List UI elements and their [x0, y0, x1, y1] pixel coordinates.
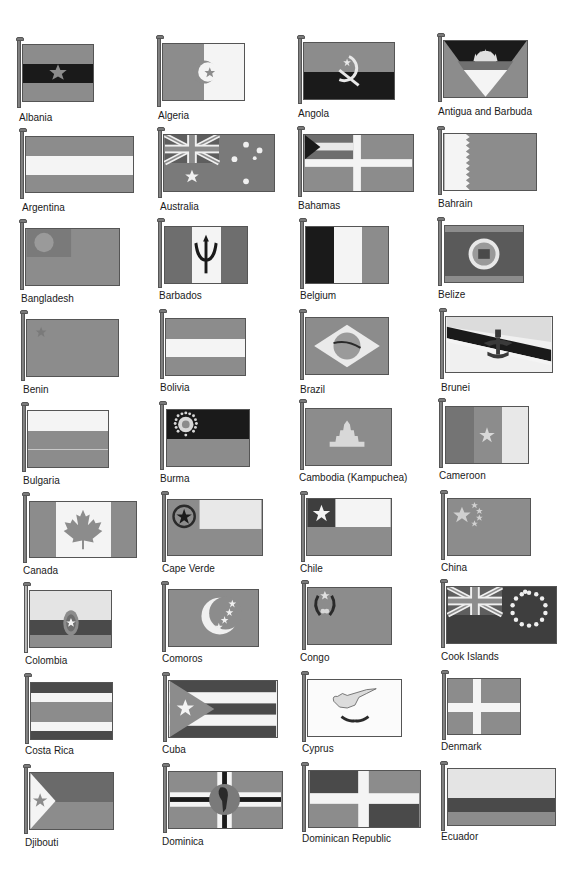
flagpole-icon: [441, 764, 445, 831]
flag-label: Cambodia (Kampuchea): [299, 472, 407, 483]
flag-cameroon: [445, 406, 529, 464]
flag-label: Argentina: [22, 202, 65, 213]
flag-comoros: [168, 589, 259, 647]
flagpole-icon: [158, 221, 162, 288]
flag-benin: [26, 319, 119, 377]
flag-cape-verde: [167, 499, 263, 556]
flagpole-icon: [163, 766, 167, 833]
flagpole-icon: [160, 312, 164, 379]
flag-label: Costa Rica: [25, 745, 74, 756]
flag-bolivia: [165, 318, 246, 376]
flag-label: Australia: [160, 201, 199, 212]
flag-brunei: [445, 316, 553, 373]
flag-label: Cape Verde: [162, 563, 215, 574]
flagpole-icon: [442, 673, 446, 740]
flagpole-icon: [157, 38, 161, 107]
flagpole-icon: [300, 402, 304, 470]
flag-dominica: [168, 771, 283, 829]
flag-label: Bangladesh: [21, 293, 74, 304]
flag-ecuador: [447, 768, 556, 826]
flagpole-icon: [302, 583, 306, 650]
flag-antigua-and-barbuda: [443, 40, 528, 98]
flag-label: Cuba: [162, 744, 186, 755]
flag-label: Bahamas: [298, 200, 340, 211]
flagpole-icon: [162, 584, 166, 652]
flagpole-icon: [24, 585, 28, 653]
flag-belgium: [305, 226, 389, 284]
flag-label: Comoros: [162, 653, 203, 664]
flag-label: Belgium: [300, 290, 336, 301]
flag-label: Bulgaria: [23, 475, 60, 486]
flag-bulgaria: [27, 410, 109, 468]
flagpole-icon: [17, 40, 21, 108]
flag-label: Djibouti: [25, 837, 58, 848]
flag-label: Algeria: [158, 110, 189, 121]
flag-label: Cameroon: [439, 470, 486, 481]
flag-label: Barbados: [159, 290, 202, 301]
flagpole-icon: [439, 401, 443, 468]
flag-colombia: [29, 590, 112, 648]
flag-label: Albania: [19, 112, 52, 123]
flag-label: Angola: [298, 108, 329, 119]
flag-label: Benin: [23, 384, 49, 395]
flag-argentina: [25, 136, 134, 193]
flagpole-icon: [438, 129, 442, 195]
flagpole-icon: [25, 676, 29, 744]
flag-label: Cook Islands: [441, 651, 499, 662]
flag-angola: [303, 42, 395, 100]
flag-label: Brazil: [300, 384, 325, 395]
flagpole-icon: [438, 220, 442, 286]
flag-label: Belize: [438, 289, 465, 300]
flagpole-icon: [301, 494, 305, 562]
flag-costa-rica: [30, 682, 113, 740]
flag-label: Cyprus: [302, 743, 334, 754]
flag-albania: [22, 44, 94, 102]
flag-label: Chile: [300, 563, 323, 574]
flag-label: Bahrain: [438, 198, 472, 209]
flag-label: Denmark: [441, 741, 482, 752]
flag-brazil: [305, 317, 389, 375]
flag-cyprus: [307, 679, 402, 737]
flag-cuba: [168, 680, 278, 738]
flag-label: Antigua and Barbuda: [438, 106, 532, 117]
flagpole-icon: [160, 404, 164, 470]
flagpole-icon: [438, 36, 442, 102]
flagpole-icon: [302, 674, 306, 742]
flag-label: China: [441, 562, 467, 573]
flag-label: Dominican Republic: [302, 833, 391, 844]
flagpole-icon: [302, 765, 306, 832]
flag-burma: [166, 409, 250, 467]
flag-canada: [29, 501, 137, 558]
flag-bangladesh: [25, 228, 120, 286]
flagpole-icon: [158, 130, 162, 198]
flagpole-icon: [441, 493, 445, 560]
flagpole-icon: [23, 495, 27, 563]
flagpole-icon: [21, 313, 25, 381]
flagpole-icon: [162, 494, 166, 562]
flag-label: Burma: [160, 473, 189, 484]
flag-denmark: [447, 678, 521, 735]
flagpole-icon: [163, 675, 167, 742]
flagpole-icon: [298, 38, 302, 104]
flag-chile: [306, 498, 392, 556]
flag-djibouti: [29, 772, 114, 830]
flagpole-icon: [20, 222, 24, 290]
flag-china: [447, 498, 531, 556]
flag-barbados: [164, 226, 248, 284]
flag-label: Bolivia: [160, 382, 189, 393]
flagpole-icon: [22, 405, 26, 472]
flag-label: Colombia: [25, 655, 67, 666]
flag-label: Dominica: [162, 836, 204, 847]
flag-label: Brunei: [441, 382, 470, 393]
flagpole-icon: [300, 312, 304, 380]
flagpole-icon: [300, 221, 304, 289]
flag-congo: [307, 587, 392, 645]
flag-algeria: [162, 43, 245, 101]
flagpole-icon: [24, 767, 28, 834]
flag-label: Ecuador: [441, 831, 478, 842]
flagpole-icon: [20, 131, 24, 199]
flag-cook-islands: [446, 586, 557, 644]
flag-bahamas: [303, 134, 414, 192]
flag-dominican-republic: [308, 770, 421, 828]
flag-australia: [163, 134, 275, 192]
